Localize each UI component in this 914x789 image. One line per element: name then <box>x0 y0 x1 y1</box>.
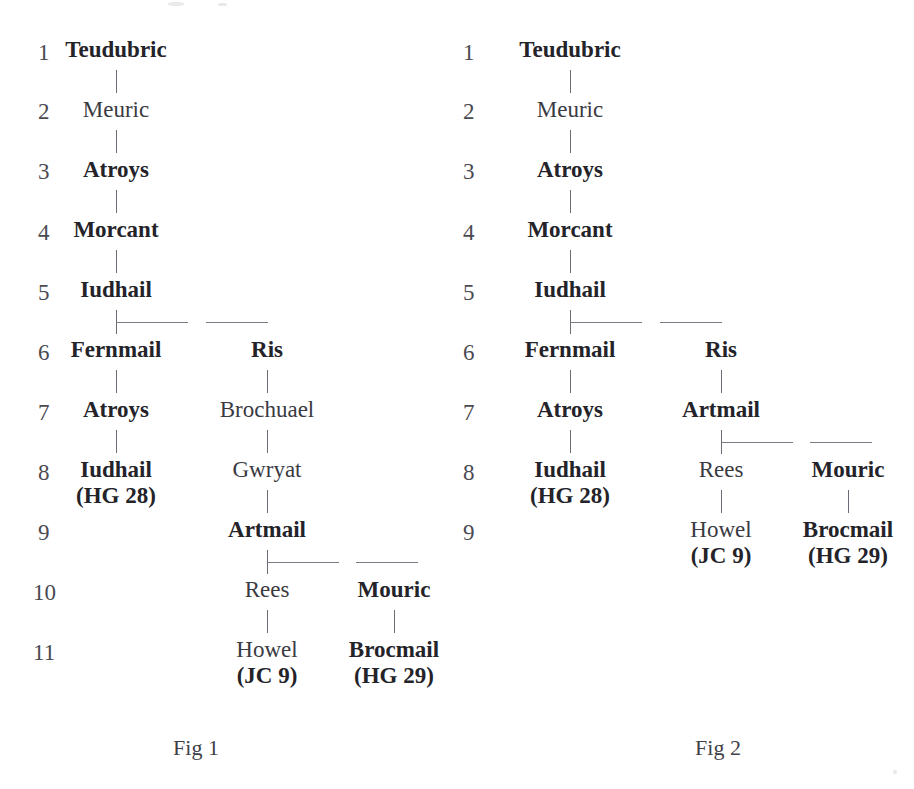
node-reference: (HG 28) <box>530 483 610 509</box>
node-reference: (JC 9) <box>690 543 751 569</box>
node-rees: Rees <box>699 457 744 483</box>
node-howel: Howel(JC 9) <box>236 637 297 689</box>
generation-number: 1 <box>463 41 475 64</box>
node-name: Brocmail <box>803 517 893 542</box>
generation-number: 9 <box>38 521 50 544</box>
connector-morcant-iudhail <box>116 250 117 273</box>
node-name: Morcant <box>527 217 612 242</box>
figure-caption: Fig 2 <box>695 735 741 761</box>
node-iudhail-g5: Iudhail <box>534 277 606 303</box>
node-mouric: Mouric <box>812 457 885 483</box>
connector-fernmail-atroys <box>116 370 117 393</box>
node-name: Teudubric <box>65 37 166 62</box>
connector-teudubric-meuric <box>570 70 571 93</box>
connector-rees-howel <box>721 490 722 513</box>
generation-number: 3 <box>38 160 50 183</box>
connector-meuric-atroys <box>570 130 571 153</box>
connector-brochuael-gwryat <box>267 430 268 453</box>
connector-ris-artmail <box>721 370 722 393</box>
connector-atroys-iudhail8 <box>116 430 117 453</box>
connector-atroys-morcant <box>116 190 117 213</box>
node-brocmail: Brocmail(HG 29) <box>803 517 893 569</box>
figure-2: 1 2 3 4 5 6 7 8 9 Teudubric Meuric Atroy… <box>455 0 914 789</box>
node-mouric: Mouric <box>358 577 431 603</box>
node-name: Morcant <box>73 217 158 242</box>
sibling-bar-gen8-left <box>721 442 793 443</box>
node-reference: (HG 29) <box>349 663 439 689</box>
node-atroys-g3: Atroys <box>537 157 603 183</box>
scan-artifact <box>893 770 897 774</box>
node-name: Fernmail <box>525 337 616 362</box>
node-name: Artmail <box>682 397 760 422</box>
connector-mouric-brocmail <box>394 610 395 633</box>
node-iudhail-g8: Iudhail(HG 28) <box>76 457 156 509</box>
connector-rees-howel <box>267 610 268 633</box>
node-name: Mouric <box>812 457 885 482</box>
node-name: Atroys <box>83 157 149 182</box>
generation-number: 3 <box>463 160 475 183</box>
generation-number: 8 <box>38 461 50 484</box>
node-name: Ris <box>705 337 737 362</box>
node-iudhail-g8: Iudhail(HG 28) <box>530 457 610 509</box>
node-name: Brocmail <box>349 637 439 662</box>
node-name: Iudhail <box>534 277 606 302</box>
connector-fernmail-atroys <box>570 370 571 393</box>
node-teudubric: Teudubric <box>519 37 620 63</box>
node-name: Teudubric <box>519 37 620 62</box>
generation-number: 9 <box>463 521 475 544</box>
node-name: Rees <box>699 457 744 482</box>
node-fernmail: Fernmail <box>525 337 616 363</box>
node-reference: (JC 9) <box>236 663 297 689</box>
sibling-bar-gen6-left <box>570 322 642 323</box>
connector-ris-brochuael <box>267 370 268 393</box>
node-ris: Ris <box>705 337 737 363</box>
generation-number: 8 <box>463 461 475 484</box>
generation-number: 7 <box>38 401 50 424</box>
connector-teudubric-meuric <box>116 70 117 93</box>
node-artmail: Artmail <box>682 397 760 423</box>
node-name: Brochuael <box>220 397 315 422</box>
sibling-bar-gen6-left <box>116 322 188 323</box>
node-name: Howel <box>236 637 297 662</box>
connector-morcant-iudhail <box>570 250 571 273</box>
node-fernmail: Fernmail <box>71 337 162 363</box>
node-name: Howel <box>690 517 751 542</box>
node-atroys-g3: Atroys <box>83 157 149 183</box>
node-reference: (HG 29) <box>803 543 893 569</box>
connector-gwryat-artmail <box>267 490 268 513</box>
connector-meuric-atroys <box>116 130 117 153</box>
generation-number: 5 <box>463 281 475 304</box>
generation-number: 1 <box>38 41 50 64</box>
generation-number: 6 <box>463 341 475 364</box>
sibling-bar-gen6-right <box>660 322 722 323</box>
scan-artifact <box>168 2 184 6</box>
node-name: Iudhail <box>80 277 152 302</box>
generation-number: 2 <box>463 100 475 123</box>
node-name: Mouric <box>358 577 431 602</box>
figure-caption: Fig 1 <box>173 735 219 761</box>
figure-1: 1 2 3 4 5 6 7 8 9 10 11 Teudubric Meuric… <box>0 0 455 789</box>
node-brocmail: Brocmail(HG 29) <box>349 637 439 689</box>
node-name: Atroys <box>83 397 149 422</box>
sibling-bar-gen10-left <box>267 562 339 563</box>
node-artmail: Artmail <box>228 517 306 543</box>
node-morcant: Morcant <box>73 217 158 243</box>
node-howel: Howel(JC 9) <box>690 517 751 569</box>
sibling-bar-gen10-right <box>356 562 418 563</box>
sibling-bar-gen6-right <box>206 322 268 323</box>
node-iudhail-g5: Iudhail <box>80 277 152 303</box>
node-brochuael: Brochuael <box>220 397 315 423</box>
node-name: Fernmail <box>71 337 162 362</box>
node-name: Rees <box>245 577 290 602</box>
node-name: Iudhail <box>534 457 606 482</box>
node-meuric: Meuric <box>537 97 603 123</box>
node-morcant: Morcant <box>527 217 612 243</box>
node-rees: Rees <box>245 577 290 603</box>
generation-number: 6 <box>38 341 50 364</box>
node-name: Gwryat <box>233 457 302 482</box>
connector-atroys-morcant <box>570 190 571 213</box>
node-ris: Ris <box>251 337 283 363</box>
generation-number: 4 <box>38 221 50 244</box>
generation-number: 5 <box>38 281 50 304</box>
node-meuric: Meuric <box>83 97 149 123</box>
